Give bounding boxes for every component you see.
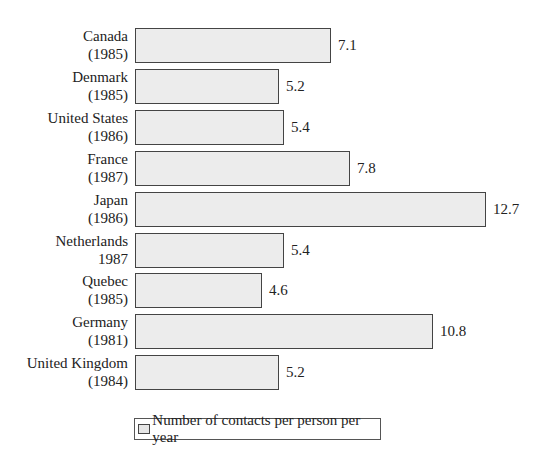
category-label-text: Quebec(1985): [0, 272, 128, 308]
category-label: Netherlands1987: [0, 233, 128, 269]
value-label: 5.4: [291, 110, 310, 145]
value-label: 5.4: [291, 233, 310, 268]
legend: Number of contacts per person per year: [134, 418, 381, 440]
category-label: Japan(1986): [0, 192, 128, 228]
category-label-text: United Kingdom(1984): [0, 354, 128, 390]
bar: [135, 192, 486, 227]
legend-swatch-icon: [138, 424, 150, 434]
bar: [135, 355, 279, 390]
bar-row: Quebec(1985)4.6: [0, 273, 549, 309]
bar: [135, 151, 350, 186]
category-label: United States(1986): [0, 110, 128, 146]
bar-chart: Canada(1985)7.1Denmark(1985)5.2United St…: [0, 0, 549, 455]
value-label: 12.7: [493, 192, 519, 227]
category-label-text: Canada(1985): [0, 27, 128, 63]
bar: [135, 110, 284, 145]
category-label: Quebec(1985): [0, 273, 128, 309]
bar: [135, 314, 433, 349]
value-label: 5.2: [286, 69, 305, 104]
bar-row: United Kingdom(1984)5.2: [0, 355, 549, 391]
value-label: 4.6: [269, 273, 288, 308]
value-label: 7.1: [338, 28, 357, 63]
category-label-text: United States(1986): [0, 109, 128, 145]
category-label: Germany(1981): [0, 314, 128, 350]
value-label: 10.8: [440, 314, 466, 349]
category-label-text: Japan(1986): [0, 191, 128, 227]
category-label-text: France(1987): [0, 150, 128, 186]
bar-row: France(1987)7.8: [0, 151, 549, 187]
value-label: 7.8: [357, 151, 376, 186]
bar-row: United States(1986)5.4: [0, 110, 549, 146]
category-label: United Kingdom(1984): [0, 355, 128, 391]
category-label-text: Netherlands1987: [0, 232, 128, 268]
legend-label: Number of contacts per person per year: [152, 412, 376, 446]
bar-row: Canada(1985)7.1: [0, 28, 549, 64]
category-label: Denmark(1985): [0, 69, 128, 105]
bar: [135, 233, 284, 268]
category-label: Canada(1985): [0, 28, 128, 64]
value-label: 5.2: [286, 355, 305, 390]
category-label-text: Germany(1981): [0, 313, 128, 349]
bar: [135, 28, 331, 63]
bar-row: Japan(1986)12.7: [0, 192, 549, 228]
bar-row: Germany(1981)10.8: [0, 314, 549, 350]
bar: [135, 273, 262, 308]
category-label-text: Denmark(1985): [0, 68, 128, 104]
bar-row: Denmark(1985)5.2: [0, 69, 549, 105]
bar: [135, 69, 279, 104]
category-label: France(1987): [0, 151, 128, 187]
bar-row: Netherlands19875.4: [0, 233, 549, 269]
